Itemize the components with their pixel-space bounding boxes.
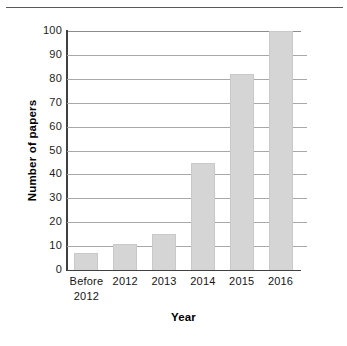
bar-slot	[222, 31, 261, 270]
bar	[191, 163, 215, 271]
x-tick-label: 2015	[222, 274, 261, 289]
x-axis-title: Year	[67, 311, 300, 323]
bar	[152, 234, 176, 270]
bar	[269, 31, 293, 270]
bar-series	[67, 31, 300, 270]
x-tick-label: 2014	[184, 274, 223, 289]
x-tick-label: Before2012	[67, 274, 106, 304]
bar-slot	[261, 31, 300, 270]
bar	[74, 253, 98, 270]
x-tick-label: 2013	[145, 274, 184, 289]
bar-slot	[184, 31, 223, 270]
bar-slot	[106, 31, 145, 270]
bar	[113, 244, 137, 270]
y-axis-title: Number of papers	[26, 31, 38, 270]
bar	[230, 74, 254, 270]
bar-slot	[67, 31, 106, 270]
page-top-rule	[6, 7, 343, 8]
x-tick-label: 2016	[261, 274, 300, 289]
bar-slot	[145, 31, 184, 270]
figure-bar-chart: 0102030405060708090100 Before20122012201…	[0, 0, 347, 346]
x-tick-label: 2012	[106, 274, 145, 289]
